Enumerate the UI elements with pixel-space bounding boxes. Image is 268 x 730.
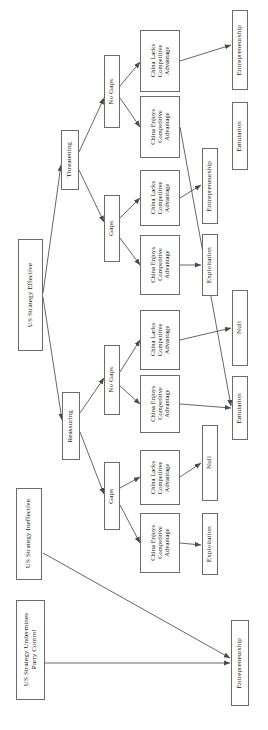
node-threatening[interactable]: Threatening <box>61 130 79 190</box>
node-label: Entrepreneurship <box>236 638 244 688</box>
node-china-lacks-advantage-4[interactable]: China Lacks Competitive Advantage <box>140 450 180 505</box>
node-outcome-null-1[interactable]: Null <box>232 290 248 366</box>
edge-tnogaps-china1 <box>120 62 140 86</box>
edge-tgaps-china4 <box>120 238 140 265</box>
edge-china1-out1 <box>180 45 231 61</box>
node-label: Exploitation <box>206 247 214 283</box>
edge-threatening-nogaps <box>79 98 104 152</box>
edge-rgaps-china7 <box>120 477 140 488</box>
node-label: China Enjoys Competitive Advantage <box>149 386 171 422</box>
node-reassuring[interactable]: Reassuring <box>62 392 80 460</box>
node-us-strategy-effective[interactable]: US Strategy Effective <box>18 239 43 351</box>
node-label: Null <box>236 321 244 334</box>
edge-china8-out8 <box>180 543 201 545</box>
node-label: No Gaps <box>108 79 116 105</box>
node-label: US Strategy Effective <box>27 263 35 327</box>
edge-reassuring-gaps <box>80 432 104 494</box>
decision-tree-diagram: US Strategy Effective US Strategy Ineffe… <box>0 0 268 730</box>
edge-effective-reassuring <box>43 297 62 420</box>
node-outcome-exploitation-2[interactable]: Exploitation <box>202 513 218 575</box>
node-label: No Gaps <box>108 367 116 393</box>
node-no-gaps-reassuring[interactable]: No Gaps <box>104 345 120 415</box>
node-outcome-emulation-1[interactable]: Emulation <box>232 102 248 170</box>
node-china-enjoys-advantage-4[interactable]: China Enjoys Competitive Advantage <box>140 513 180 573</box>
edge-threatening-gaps <box>79 170 104 222</box>
node-label: Entrepreneurship <box>206 161 214 211</box>
node-china-enjoys-advantage-2[interactable]: China Enjoys Competitive Advantage <box>140 235 180 295</box>
node-label: China Lacks Competitive Advantage <box>149 181 171 214</box>
edge-china5-out5 <box>180 328 231 340</box>
node-china-lacks-advantage-2[interactable]: China Lacks Competitive Advantage <box>140 170 180 226</box>
node-label: Threatening <box>66 142 74 177</box>
node-label: Gaps <box>108 489 116 504</box>
node-label: Null <box>206 456 214 469</box>
node-label: China Lacks Competitive Advantage <box>149 461 171 494</box>
node-label: China Enjoys Competitive Advantage <box>149 109 171 145</box>
node-gaps-threatening[interactable]: Gaps <box>104 195 120 262</box>
node-outcome-null-2[interactable]: Null <box>202 425 218 501</box>
node-label: Emulation <box>236 121 244 151</box>
edge-rnogaps-china6 <box>120 386 140 404</box>
node-no-gaps-threatening[interactable]: No Gaps <box>104 55 120 128</box>
node-china-lacks-advantage-1[interactable]: China Lacks Competitive Advantage <box>140 30 180 92</box>
edge-rgaps-china8 <box>120 505 140 543</box>
node-label: Gaps <box>108 221 116 236</box>
edge-rnogaps-china5 <box>120 340 140 372</box>
node-label: Entrepreneurship <box>236 25 244 75</box>
node-outcome-entrepreneurship-1[interactable]: Entrepreneurship <box>232 10 248 90</box>
edge-tgaps-china3 <box>120 198 140 218</box>
edge-effective-threatening <box>43 165 61 293</box>
node-label: US Strategy Ineffective <box>25 499 33 568</box>
node-china-lacks-advantage-3[interactable]: China Lacks Competitive Advantage <box>140 310 180 370</box>
node-label: US Strategy Undermines Party Control <box>23 613 39 686</box>
node-outcome-exploitation-1[interactable]: Exploitation <box>202 234 218 296</box>
edge-reassuring-nogaps <box>80 378 104 413</box>
edge-china3-out3 <box>180 185 201 198</box>
node-label: China Enjoys Competitive Advantage <box>149 525 171 561</box>
node-label: Reassuring <box>67 410 75 443</box>
node-outcome-entrepreneurship-2[interactable]: Entrepreneurship <box>202 148 218 224</box>
edge-china6-out6 <box>180 404 231 408</box>
node-gaps-reassuring[interactable]: Gaps <box>104 462 120 530</box>
node-label: China Enjoys Competitive Advantage <box>149 247 171 283</box>
edge-china7-out7 <box>180 463 201 477</box>
node-label: Emulation <box>236 393 244 423</box>
node-outcome-emulation-2[interactable]: Emulation <box>232 376 248 440</box>
node-us-strategy-ineffective[interactable]: US Strategy Ineffective <box>16 488 42 580</box>
edge-tnogaps-china2 <box>120 98 140 127</box>
node-label: Exploitation <box>206 526 214 562</box>
node-china-enjoys-advantage-1[interactable]: China Enjoys Competitive Advantage <box>140 96 180 158</box>
node-label: China Lacks Competitive Advantage <box>149 323 171 356</box>
node-outcome-entrepreneurship-3[interactable]: Entrepreneurship <box>231 620 249 706</box>
node-label: China Lacks Competitive Advantage <box>149 44 171 77</box>
node-us-strategy-undermines-party-control[interactable]: US Strategy Undermines Party Control <box>16 600 45 700</box>
node-china-enjoys-advantage-3[interactable]: China Enjoys Competitive Advantage <box>140 375 180 433</box>
